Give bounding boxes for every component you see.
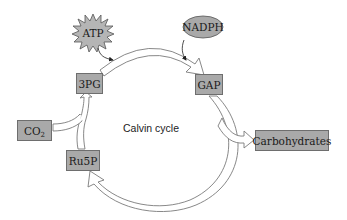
node-gap: GAP — [195, 74, 223, 95]
node-carbohydrates-label: Carbohydrates — [253, 135, 332, 147]
node-co2-label: CO2 — [24, 125, 45, 137]
node-ru5p: Ru5P — [66, 150, 100, 171]
node-3pg-label: 3PG — [78, 78, 100, 90]
atp-label: ATP — [78, 26, 108, 40]
arrow-gap-to-ru5p — [88, 96, 238, 212]
node-co2: CO2 — [17, 120, 52, 141]
diagram-arrows — [0, 0, 347, 220]
nadph-label: NADPH — [183, 20, 223, 34]
node-gap-label: GAP — [197, 79, 220, 91]
calvin-cycle-diagram: ATP NADPH 3PG GAP CO2 Ru5P Carbohydrates… — [0, 0, 347, 220]
calvin-cycle-label: Calvin cycle — [123, 122, 179, 134]
atp-cofactor-arrow — [98, 48, 113, 60]
arrow-ru5p-to-3pg — [53, 92, 92, 149]
node-carbohydrates: Carbohydrates — [255, 130, 329, 151]
node-3pg: 3PG — [76, 73, 103, 94]
node-ru5p-label: Ru5P — [69, 155, 97, 167]
arrow-3pg-to-gap — [100, 48, 204, 76]
